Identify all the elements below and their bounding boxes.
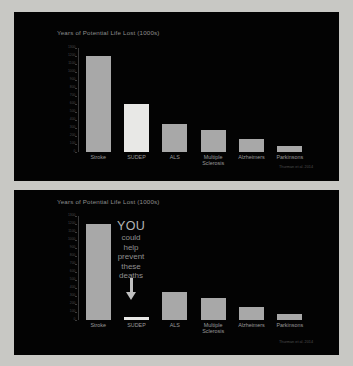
bar-stroke [86, 56, 111, 152]
x-axis-label-stroke: Stroke [78, 154, 118, 160]
bar-multiple-sclerosis [201, 298, 226, 320]
citation-top: Thurman et al. 2014 [279, 165, 313, 169]
y-axis-tick-mark [75, 224, 77, 225]
y-axis-tick-mark [75, 144, 77, 145]
y-axis-tick-mark [75, 248, 77, 249]
x-axis-label-als: ALS [155, 322, 195, 328]
x-axis-label-parkinsons: Parkinsons [270, 154, 310, 160]
y-axis-tick-mark [75, 280, 77, 281]
slide-with-call-to-action: Years of Potential Life Lost (1000s) 010… [14, 190, 339, 355]
y-axis-tick-mark [75, 240, 77, 241]
y-axis-tick-mark [75, 104, 77, 105]
cta-line: could [106, 233, 156, 243]
call-to-action-text: YOU couldhelppreventthesedeaths [106, 220, 156, 281]
bar-group: * [79, 48, 309, 152]
x-axis-label-multiple-sclerosis: Multiple Sclerosis [193, 154, 233, 167]
bar-sudep [124, 104, 149, 152]
y-axis-tick-mark [75, 232, 77, 233]
y-axis-tick-mark [75, 256, 77, 257]
bar-als [162, 124, 187, 152]
y-axis-tick-mark [75, 128, 77, 129]
y-axis-tick-mark [75, 296, 77, 297]
y-axis-tick-mark [75, 48, 77, 49]
slide-with-asterisk: Years of Potential Life Lost (1000s) 010… [14, 12, 339, 181]
bar-parkinsons [277, 146, 302, 152]
plot-area-top: 0100200300400500600700800900100011001200… [64, 48, 309, 152]
y-axis-tick-mark [75, 312, 77, 313]
cta-headline: YOU [106, 220, 156, 233]
chart-title: Years of Potential Life Lost (1000s) [57, 29, 160, 36]
y-axis-tick-mark [75, 152, 77, 153]
cta-line: these [106, 262, 156, 272]
x-axis-label-alzheimers: Alzheimers [232, 154, 272, 160]
x-axis-label-stroke: Stroke [78, 322, 118, 328]
y-axis-tick-mark [75, 96, 77, 97]
y-axis-tick-mark [75, 136, 77, 137]
y-axis-tick-mark [75, 288, 77, 289]
x-axis-label-sudep: SUDEP [117, 154, 157, 160]
y-axis-tick-mark [75, 320, 77, 321]
y-axis-tick-mark [75, 64, 77, 65]
x-axis-label-alzheimers: Alzheimers [232, 322, 272, 328]
x-axis-label-multiple-sclerosis: Multiple Sclerosis [193, 322, 233, 335]
cta-line: prevent [106, 252, 156, 262]
y-axis-tick-mark [75, 216, 77, 217]
x-axis-label-als: ALS [155, 154, 195, 160]
bar-sudep [124, 317, 149, 320]
citation-bottom: Thurman et al. 2014 [279, 340, 313, 344]
y-axis-tick-mark [75, 80, 77, 81]
chart-title: Years of Potential Life Lost (1000s) [57, 198, 160, 205]
y-axis-tick-mark [75, 120, 77, 121]
cta-lines: couldhelppreventthesedeaths [106, 233, 156, 281]
down-arrow-icon [126, 278, 137, 300]
y-axis-tick-mark [75, 264, 77, 265]
arrow-head [126, 292, 136, 300]
arrow-shaft [130, 278, 133, 293]
y-axis-tick-mark [75, 88, 77, 89]
bar-alzheimers [239, 307, 264, 320]
bar-als [162, 292, 187, 320]
y-axis-tick-mark [75, 72, 77, 73]
bar-parkinsons [277, 314, 302, 320]
y-axis-tick-mark [75, 304, 77, 305]
y-axis-tick-mark [75, 272, 77, 273]
x-axis-label-parkinsons: Parkinsons [270, 322, 310, 328]
x-axis-label-sudep: SUDEP [117, 322, 157, 328]
cta-line: help [106, 243, 156, 253]
y-axis-tick-mark [75, 56, 77, 57]
y-axis-tick-mark [75, 112, 77, 113]
bar-multiple-sclerosis [201, 130, 226, 152]
plot-area-bottom: 0100200300400500600700800900100011001200… [64, 216, 309, 320]
bar-alzheimers [239, 139, 264, 152]
